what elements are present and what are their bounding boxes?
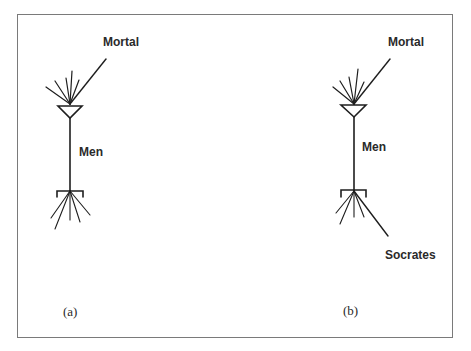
mortal-connection-b xyxy=(354,59,390,104)
label-mortal-a: Mortal xyxy=(103,35,139,49)
mortal-connection-a xyxy=(70,59,106,104)
cell-body-triangle-b xyxy=(341,105,366,117)
diagram-canvas xyxy=(0,0,471,351)
dendrites-b-top xyxy=(333,69,364,104)
cell-body-triangle-a xyxy=(58,106,82,118)
caption-b: (b) xyxy=(343,303,358,319)
label-men-b: Men xyxy=(362,140,386,154)
label-mortal-b: Mortal xyxy=(388,35,424,49)
socrates-connection-b xyxy=(354,191,388,236)
neuron-a xyxy=(46,59,106,229)
caption-a: (a) xyxy=(63,304,77,320)
label-men-a: Men xyxy=(79,145,103,159)
label-socrates-b: Socrates xyxy=(385,248,436,262)
